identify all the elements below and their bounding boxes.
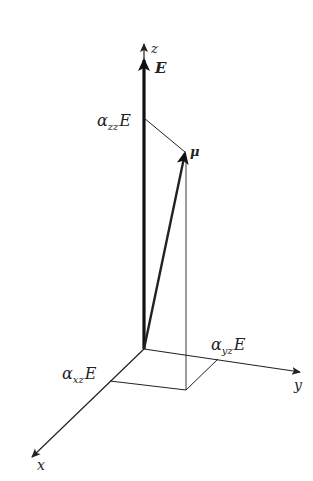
- zz-projection-line: [144, 118, 185, 152]
- y-axis-label: y: [293, 377, 303, 393]
- alpha-yz-label: αyzE: [211, 335, 246, 356]
- dipole-vector-label: μ: [190, 144, 200, 159]
- dipole-vector-mu: [144, 153, 185, 349]
- alpha-xz-label: αxzE: [62, 364, 97, 385]
- polarizability-diagram: z y x E μ αzzE αyzE αxzE: [0, 0, 313, 481]
- xz-projection-line: [110, 381, 186, 390]
- field-vector-label: E: [154, 59, 167, 77]
- yz-projection-line: [186, 359, 218, 390]
- x-axis-label: x: [37, 457, 45, 473]
- alpha-zz-label: αzzE: [97, 111, 131, 132]
- z-axis-label: z: [150, 41, 158, 56]
